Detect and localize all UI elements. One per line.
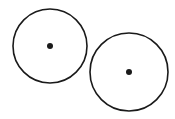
right-circle-center-dot (126, 69, 132, 75)
left-circle-group (13, 9, 87, 83)
two-circles-diagram (0, 0, 175, 119)
left-circle-center-dot (47, 43, 53, 49)
right-circle-group (90, 33, 168, 111)
